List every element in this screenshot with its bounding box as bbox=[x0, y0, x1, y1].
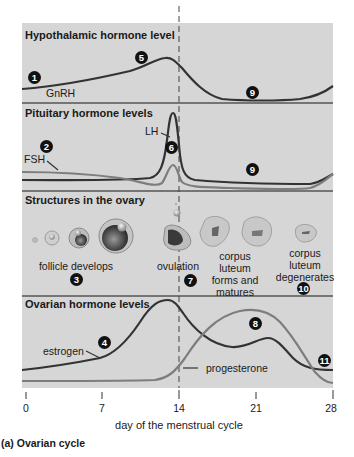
x-tick-label-28: 28 bbox=[325, 402, 337, 414]
x-tick-label-14: 14 bbox=[173, 402, 185, 414]
figure-graphics bbox=[0, 0, 354, 457]
step-badge-10: 10 bbox=[297, 282, 310, 295]
step-badge-5: 5 bbox=[135, 51, 148, 64]
corpus-luteum-forms-label: corpus luteum forms and matures bbox=[212, 250, 259, 298]
follicle-develops-label: follicle develops bbox=[39, 260, 113, 272]
x-tick-label-21: 21 bbox=[250, 402, 262, 414]
corpus-luteum-degenerates-label: corpus luteum degenerates bbox=[276, 247, 334, 283]
corpus-luteum-degenerating bbox=[295, 224, 316, 242]
x-axis-label: day of the menstrual cycle bbox=[115, 419, 243, 431]
x-tick-label-7: 7 bbox=[99, 402, 105, 414]
pituitary-section-title: Pituitary hormone levels bbox=[25, 107, 153, 119]
step-badge-9a: 9 bbox=[246, 86, 259, 99]
follicle-stage-3 bbox=[69, 228, 89, 248]
cl-forms-line-2: luteum bbox=[212, 262, 259, 274]
step-badge-2: 2 bbox=[40, 140, 53, 153]
hypothalamic-section-title: Hypothalamic hormone level bbox=[25, 29, 175, 41]
follicle-stage-1 bbox=[33, 238, 38, 243]
step-badge-4: 4 bbox=[98, 336, 111, 349]
step-badge-9b: 9 bbox=[246, 163, 259, 176]
x-tick-label-0: 0 bbox=[23, 402, 29, 414]
step-badge-6: 6 bbox=[165, 141, 178, 154]
ovulation-label: ovulation bbox=[157, 260, 199, 272]
step-badge-3: 3 bbox=[70, 273, 83, 286]
ovarian-cycle-figure: Hypothalamic hormone level Pituitary hor… bbox=[0, 0, 354, 457]
ovarian-section-title: Ovarian hormone levels bbox=[25, 298, 150, 310]
cl-forms-line-1: corpus bbox=[212, 250, 259, 262]
corpus-luteum-mature bbox=[242, 217, 272, 246]
gnrh-label: GnRH bbox=[46, 87, 75, 99]
step-badge-8: 8 bbox=[249, 317, 262, 330]
follicle-stage-2 bbox=[45, 231, 59, 245]
cl-degen-line-1: corpus bbox=[276, 247, 334, 259]
estrogen-label: estrogen bbox=[43, 345, 84, 357]
cl-degen-line-2: luteum bbox=[276, 259, 334, 271]
follicle-stage-4 bbox=[99, 219, 133, 253]
step-badge-11: 11 bbox=[318, 354, 331, 367]
lh-label: LH bbox=[145, 125, 158, 137]
progesterone-label: progesterone bbox=[206, 362, 268, 374]
cl-forms-line-4: matures bbox=[212, 286, 259, 298]
step-badge-7: 7 bbox=[184, 274, 197, 287]
step-badge-1: 1 bbox=[28, 71, 41, 84]
figure-caption: (a) Ovarian cycle bbox=[1, 437, 85, 449]
fsh-label: FSH bbox=[24, 153, 45, 165]
ovary-section-title: Structures in the ovary bbox=[25, 194, 145, 206]
cl-forms-line-3: forms and bbox=[212, 274, 259, 286]
